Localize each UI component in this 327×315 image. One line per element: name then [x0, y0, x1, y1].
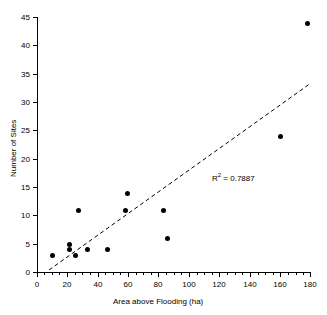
y-tick-label: 15 [8, 183, 30, 192]
r-squared-value: = 0.7887 [221, 174, 255, 183]
x-minor-tick [75, 273, 76, 275]
data-point [105, 247, 110, 252]
data-point [278, 134, 283, 139]
x-minor-tick [204, 273, 205, 275]
data-point [123, 208, 128, 213]
y-tick [33, 45, 37, 46]
y-tick [33, 74, 37, 75]
y-tick [33, 130, 37, 131]
trendline [0, 0, 327, 315]
y-tick [33, 159, 37, 160]
x-minor-tick [113, 273, 114, 275]
x-minor-tick [296, 273, 297, 275]
scatter-chart: 0 5 10 15 20 25 30 35 40 45 0 20 40 60 8… [0, 0, 327, 315]
data-point [165, 236, 170, 241]
x-tick-label: 160 [268, 280, 292, 289]
y-tick [33, 187, 37, 188]
x-minor-tick [181, 273, 182, 275]
x-axis-title: Area above Flooding (ha) [113, 297, 203, 306]
x-minor-tick [44, 273, 45, 275]
x-tick-label: 0 [25, 280, 49, 289]
x-minor-tick [59, 273, 60, 275]
x-tick [128, 273, 129, 277]
x-minor-tick [273, 273, 274, 275]
x-tick [250, 273, 251, 277]
x-minor-tick [105, 273, 106, 275]
y-tick [33, 102, 37, 103]
y-axis-line [37, 17, 38, 273]
x-tick [280, 273, 281, 277]
x-minor-tick [136, 273, 137, 275]
data-point [76, 208, 81, 213]
x-tick [37, 273, 38, 277]
data-point [67, 242, 72, 247]
y-tick [33, 215, 37, 216]
x-tick-label: 40 [86, 280, 110, 289]
x-minor-tick [258, 273, 259, 275]
x-minor-tick [242, 273, 243, 275]
y-tick-label: 45 [8, 13, 30, 22]
x-tick [310, 273, 311, 277]
x-tick [189, 273, 190, 277]
x-minor-tick [143, 273, 144, 275]
x-minor-tick [265, 273, 266, 275]
y-axis-title: Number of Sites [9, 120, 18, 177]
data-point [73, 253, 78, 258]
x-tick-label: 20 [55, 280, 79, 289]
r-squared-annotation: R2 = 0.7887 [212, 172, 255, 183]
x-tick [67, 273, 68, 277]
x-minor-tick [235, 273, 236, 275]
x-tick-label: 140 [238, 280, 262, 289]
data-point [305, 21, 310, 26]
x-minor-tick [52, 273, 53, 275]
x-minor-tick [120, 273, 121, 275]
x-minor-tick [212, 273, 213, 275]
data-point [50, 253, 55, 258]
x-minor-tick [82, 273, 83, 275]
y-tick-label: 40 [8, 41, 30, 50]
x-minor-tick [303, 273, 304, 275]
y-tick [33, 17, 37, 18]
data-point [161, 208, 166, 213]
x-minor-tick [90, 273, 91, 275]
y-tick-label: 5 [8, 240, 30, 249]
x-minor-tick [227, 273, 228, 275]
x-tick [219, 273, 220, 277]
data-point [67, 247, 72, 252]
x-tick [158, 273, 159, 277]
x-tick-label: 80 [146, 280, 170, 289]
x-minor-tick [288, 273, 289, 275]
x-minor-tick [197, 273, 198, 275]
y-tick-label: 10 [8, 211, 30, 220]
y-tick-label: 35 [8, 70, 30, 79]
x-tick-label: 180 [298, 280, 322, 289]
x-tick-label: 100 [177, 280, 201, 289]
y-tick [33, 244, 37, 245]
y-tick-label: 0 [8, 268, 30, 277]
x-tick [98, 273, 99, 277]
y-tick-label: 30 [8, 98, 30, 107]
x-tick-label: 60 [116, 280, 140, 289]
x-tick-label: 120 [207, 280, 231, 289]
data-point [85, 247, 90, 252]
x-minor-tick [166, 273, 167, 275]
x-minor-tick [174, 273, 175, 275]
data-point [125, 191, 130, 196]
x-minor-tick [151, 273, 152, 275]
